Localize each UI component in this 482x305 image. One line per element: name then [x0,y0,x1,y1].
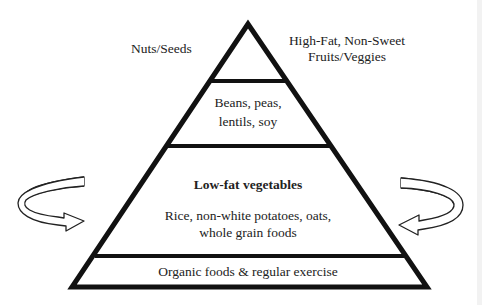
label-nuts-seeds: Nuts/Seeds [131,41,192,57]
food-pyramid-diagram: Nuts/Seeds High-Fat, Non-Sweet Fruits/Ve… [0,0,482,305]
tier-grains-line2: whole grain foods [128,225,368,241]
left-curved-arrow-icon [18,177,84,231]
tier-beans-line2: lentils, soy [198,114,298,130]
label-high-fat-line1: High-Fat, Non-Sweet [284,33,410,49]
tier-beans-line1: Beans, peas, [198,95,298,111]
tier-vegetables-heading: Low-fat vegetables [148,177,348,193]
tier-grains-line1: Rice, non-white potatoes, oats, [128,208,368,224]
label-high-fat-line2: Fruits/Veggies [284,49,410,65]
tier-base-label: Organic foods & regular exercise [128,264,368,280]
right-curved-arrow-icon [399,178,463,235]
